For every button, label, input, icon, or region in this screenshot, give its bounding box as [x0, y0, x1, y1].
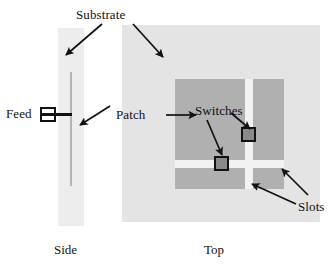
caption-side-view: Side	[54, 243, 77, 256]
label-slots: Slots	[298, 200, 325, 213]
annotation-arrows-layer	[0, 0, 334, 273]
arrow-patch-to-side	[80, 106, 110, 125]
arrow-switches-to-horizontal	[207, 120, 222, 155]
label-feed: Feed	[6, 107, 32, 120]
caption-top-view: Top	[204, 243, 224, 256]
arrow-substrate-to-side	[66, 24, 102, 55]
arrow-slots-to-horizontal-slot	[282, 169, 308, 195]
arrow-substrate-to-top	[133, 24, 163, 57]
label-patch: Patch	[116, 108, 145, 121]
label-substrate: Substrate	[76, 8, 125, 21]
label-switches: Switches	[195, 104, 243, 117]
antenna-geometry-figure: Substrate Feed Patch Switches Slots Side…	[0, 0, 334, 273]
arrow-slots-to-vertical-slot	[252, 184, 296, 204]
